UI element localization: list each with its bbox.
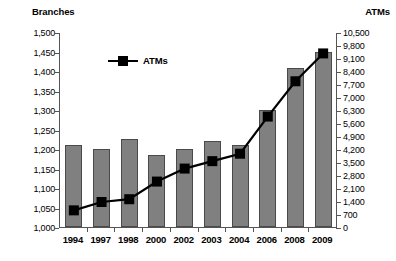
x-tick-mark	[142, 228, 143, 232]
chart-container: Branches ATMs 1,0001,0501,1001,1501,2001…	[0, 0, 396, 261]
x-tick-label-2002: 2002	[173, 234, 193, 245]
left-tick-label: 1,500	[33, 28, 55, 38]
right-tick-label: 5,600	[343, 119, 365, 129]
left-tick-mark	[54, 228, 59, 229]
right-tick-label: 9,100	[343, 54, 365, 64]
right-axis-title: ATMs	[365, 6, 390, 17]
bar-2004	[232, 145, 249, 227]
left-axis-title: Branches	[32, 6, 75, 17]
right-tick-label: 4,200	[343, 145, 365, 155]
left-tick-label: 1,100	[33, 184, 55, 194]
plot-area	[59, 33, 336, 228]
right-tick-label: 700	[343, 210, 357, 220]
bar-2009	[315, 52, 332, 228]
right-tick-label: 3,500	[343, 158, 365, 168]
legend-marker-atms	[108, 55, 138, 66]
legend-label-atms: ATMs	[143, 55, 168, 66]
bar-1994	[65, 145, 82, 227]
left-tick-label: 1,200	[33, 145, 55, 155]
right-tick-label: 0	[343, 223, 348, 233]
x-tick-label-2006: 2006	[257, 234, 277, 245]
left-tick-label: 1,050	[33, 204, 55, 214]
x-tick-label-2009: 2009	[312, 234, 332, 245]
bar-2008	[287, 68, 304, 227]
left-tick-label: 1,450	[33, 48, 55, 58]
chart-legend: ATMs	[108, 55, 168, 66]
right-tick-label: 7,000	[343, 93, 365, 103]
right-tick-label: 10,500	[343, 28, 369, 38]
right-tick-label: 4,900	[343, 132, 365, 142]
x-tick-mark	[225, 228, 226, 232]
right-tick-mark	[336, 228, 341, 229]
right-axis-spine	[336, 33, 337, 228]
right-tick-label: 7,700	[343, 80, 365, 90]
x-tick-mark	[87, 228, 88, 232]
left-tick-label: 1,000	[33, 223, 55, 233]
x-tick-label-1997: 1997	[90, 234, 110, 245]
x-tick-label-1994: 1994	[63, 234, 83, 245]
left-tick-label: 1,400	[33, 67, 55, 77]
bar-2003	[204, 141, 221, 227]
legend-square-icon	[118, 56, 128, 66]
left-tick-label: 1,150	[33, 165, 55, 175]
x-tick-mark	[308, 228, 309, 232]
x-tick-label-2008: 2008	[284, 234, 304, 245]
right-tick-label: 1,400	[343, 197, 365, 207]
atms-line-path	[74, 53, 323, 210]
right-tick-label: 9,800	[343, 41, 365, 51]
right-tick-label: 2,100	[343, 184, 365, 194]
bar-2006	[259, 110, 276, 227]
right-tick-label: 2,800	[343, 171, 365, 181]
x-tick-mark	[114, 228, 115, 232]
bar-2002	[176, 149, 193, 227]
x-tick-label-2004: 2004	[229, 234, 249, 245]
left-tick-label: 1,250	[33, 126, 55, 136]
x-tick-label-1998: 1998	[118, 234, 138, 245]
x-tick-label-2000: 2000	[146, 234, 166, 245]
left-tick-label: 1,300	[33, 106, 55, 116]
bar-1997	[93, 149, 110, 227]
bar-2000	[148, 155, 165, 227]
x-tick-mark	[198, 228, 199, 232]
x-tick-mark	[170, 228, 171, 232]
x-tick-label-2003: 2003	[201, 234, 221, 245]
right-tick-label: 8,400	[343, 67, 365, 77]
x-tick-mark	[281, 228, 282, 232]
bar-1998	[121, 139, 138, 227]
left-tick-label: 1,350	[33, 87, 55, 97]
x-tick-mark	[253, 228, 254, 232]
right-tick-label: 6,300	[343, 106, 365, 116]
